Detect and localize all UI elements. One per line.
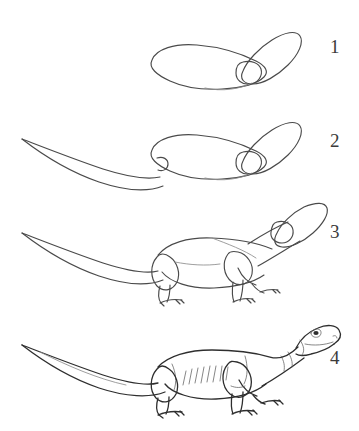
step-1-number: 1 (330, 37, 340, 56)
drawing-tutorial-illustration (0, 0, 359, 431)
nostril (333, 336, 337, 338)
rib-hatch-5 (207, 366, 210, 382)
front-leg-near-lower (232, 282, 234, 302)
jaw-circle-guide (236, 151, 261, 174)
rib-hatching (183, 366, 228, 385)
step-4-drawing (22, 326, 340, 418)
front-toe-near-1 (247, 299, 251, 303)
step-3-drawing (22, 203, 327, 306)
rib-hatch-1 (183, 371, 186, 385)
hind-heel (159, 415, 163, 418)
front-toe-far-2 (277, 290, 280, 293)
head-oval-shape (275, 203, 328, 247)
hind-toe-1 (176, 300, 180, 304)
front-leg-near-back (240, 280, 243, 301)
head-lower-outline (296, 344, 334, 356)
hip-soft-line (175, 262, 220, 265)
tail-upper-edge (22, 139, 160, 178)
head-oval-shape (242, 33, 302, 84)
rib-hatch-6 (213, 366, 216, 382)
shoulder-soft-line (212, 238, 256, 258)
cheek-line (300, 340, 304, 355)
step-1-drawing (151, 33, 301, 90)
hind-toe-2 (181, 300, 184, 303)
tail-upper-edge (22, 233, 158, 272)
mouth-line (305, 342, 333, 345)
back-outline (158, 238, 272, 255)
front-toe-far-1 (273, 290, 276, 293)
step-4-number: 4 (330, 348, 340, 367)
shoulder-crease (244, 356, 247, 384)
head-oval-shape (242, 123, 302, 174)
rib-hatch-2 (189, 369, 192, 384)
front-foot-far (261, 401, 280, 403)
throat-outline (262, 358, 304, 386)
hind-toe-1 (175, 412, 179, 416)
step-3-number: 3 (330, 222, 340, 241)
tail-upper-edge (22, 345, 158, 384)
body-oval-shape (151, 135, 266, 180)
rib-hatch-4 (201, 367, 204, 383)
front-toe-near-1 (248, 411, 252, 415)
rib-hatch-3 (195, 368, 198, 383)
rib-hatch-7 (220, 366, 222, 381)
front-toe-far-2 (279, 400, 283, 404)
front-toe-near-2 (252, 299, 255, 302)
step-2-number: 2 (330, 131, 340, 150)
jaw-circle-guide (236, 61, 261, 84)
front-toe-near-2 (253, 410, 257, 414)
rib-hatch-8 (226, 367, 228, 380)
step-2-drawing (22, 123, 301, 190)
neck-fold-2 (281, 356, 284, 371)
front-toe-far-1 (274, 401, 278, 405)
eye (313, 331, 318, 335)
body-oval-shape (151, 45, 266, 90)
hind-heel (161, 303, 164, 306)
